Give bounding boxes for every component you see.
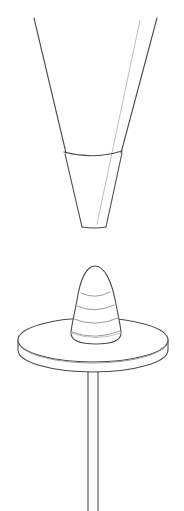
canvas-background	[0, 0, 184, 511]
line-drawing-svg	[0, 0, 184, 511]
illustration-canvas: Technical Line Drawing	[0, 0, 184, 511]
